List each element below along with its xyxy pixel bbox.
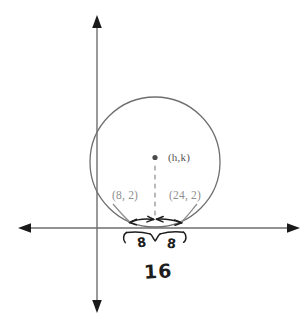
left-measure-arrow — [130, 216, 154, 225]
x-axis — [18, 223, 300, 233]
y-axis-top-arrowhead — [92, 15, 102, 28]
right-brace — [155, 232, 186, 243]
right-measure-arrow — [157, 217, 182, 226]
y-axis — [92, 15, 102, 313]
circle-shape — [90, 97, 220, 227]
x-axis-left-arrowhead — [18, 223, 31, 233]
geometry-figure — [0, 0, 308, 330]
left-brace — [124, 232, 156, 243]
x-axis-right-arrowhead — [287, 223, 300, 233]
figure-canvas: (h,k) (8, 2) (24, 2) 8 8 16 — [0, 0, 308, 330]
y-axis-bottom-arrowhead — [92, 300, 102, 313]
center-dot — [152, 155, 157, 160]
